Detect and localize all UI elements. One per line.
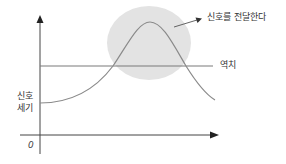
y-axis-label-line1: 신호	[17, 92, 33, 101]
y-axis-label-line2: 세기	[17, 104, 33, 113]
highlight-ellipse	[107, 6, 191, 80]
signal-transmitted-label: 신호를 전달한다	[207, 13, 266, 22]
y-axis-arrow-icon	[37, 15, 44, 23]
signal-threshold-diagram	[0, 0, 286, 164]
threshold-label: 역치	[220, 61, 236, 70]
origin-label: 0	[28, 141, 34, 150]
x-axis-arrow-icon	[210, 132, 219, 139]
